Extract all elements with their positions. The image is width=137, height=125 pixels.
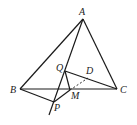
segment-ab: [20, 19, 83, 89]
dashed-segment-md: [70, 78, 88, 90]
geometry-figure: [0, 0, 137, 125]
label-a: A: [79, 7, 85, 17]
label-q: Q: [56, 63, 63, 73]
label-b: B: [10, 85, 16, 95]
segment-qm: [65, 71, 70, 90]
label-p: P: [54, 103, 60, 113]
segment-pm: [54, 90, 70, 102]
label-d: D: [86, 66, 93, 76]
label-m: M: [71, 91, 79, 101]
segment-bp: [20, 89, 54, 102]
label-c: C: [120, 85, 127, 95]
